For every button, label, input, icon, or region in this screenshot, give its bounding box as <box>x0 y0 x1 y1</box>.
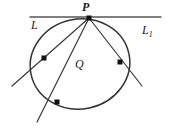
secant-right <box>89 18 142 86</box>
label-line-l1: L1 <box>142 24 153 39</box>
intersection-right-marker <box>118 60 123 65</box>
label-line-l: L <box>31 19 38 31</box>
figure-canvas <box>0 0 169 132</box>
geometry-figure: P L L1 Q <box>0 0 169 132</box>
tangency-point-marker <box>87 16 92 21</box>
intersection-left-marker <box>42 56 47 61</box>
label-point-p: P <box>82 1 89 13</box>
intersection-bottom-marker <box>55 100 60 105</box>
label-line-l1-subscript: 1 <box>149 30 153 39</box>
label-region-q: Q <box>75 58 84 70</box>
label-line-l1-base: L <box>142 23 149 37</box>
